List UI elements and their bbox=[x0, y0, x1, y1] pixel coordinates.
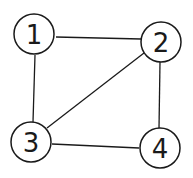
edges bbox=[33, 37, 160, 148]
node-2-label: 2 bbox=[153, 28, 170, 58]
node-3-label: 3 bbox=[23, 128, 40, 158]
edge-2-3 bbox=[47, 53, 144, 128]
edge-1-3 bbox=[33, 55, 35, 122]
node-4: 4 bbox=[140, 128, 180, 168]
edge-1-2 bbox=[56, 37, 141, 39]
edge-3-4 bbox=[52, 144, 139, 148]
node-3: 3 bbox=[11, 122, 51, 162]
node-1: 1 bbox=[14, 14, 54, 54]
node-4-label: 4 bbox=[152, 134, 169, 164]
node-2: 2 bbox=[141, 22, 181, 62]
edge-2-4 bbox=[159, 62, 160, 128]
graph-diagram: 1 2 3 4 bbox=[0, 0, 193, 178]
node-1-label: 1 bbox=[26, 20, 43, 50]
